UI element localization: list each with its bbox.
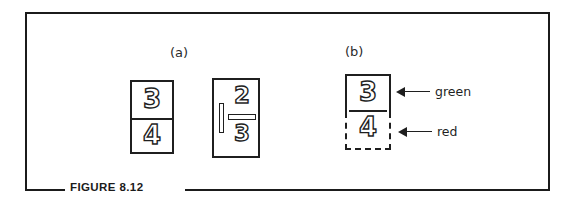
- figure-frame-bottom-left: [25, 189, 65, 191]
- figure-frame-bottom-right: [185, 189, 550, 191]
- figure-frame-right: [548, 12, 550, 191]
- numerator-digit: 3: [132, 86, 172, 112]
- fraction-box-three-quarters: 3 4: [130, 80, 174, 154]
- annotation-label: red: [437, 124, 458, 139]
- left-arrow-icon: [398, 126, 432, 138]
- panel-label-b: (b): [345, 44, 363, 59]
- figure-frame-top: [25, 12, 550, 14]
- region-cell-green: 3: [345, 74, 391, 112]
- numerator-digit: 3: [347, 79, 389, 105]
- figure-frame-left: [25, 12, 27, 191]
- denominator-digit: 4: [132, 122, 172, 148]
- panel-label-a: (a): [170, 45, 188, 60]
- left-arrow-icon: [396, 86, 430, 98]
- insertion-cursor-icon: [219, 103, 224, 133]
- numerator-digit: 2: [226, 84, 258, 107]
- denominator-digit: 3: [226, 122, 258, 145]
- denominator-digit: 4: [347, 114, 389, 140]
- annotation-label: green: [435, 84, 471, 99]
- fraction-box-two-thirds: 2 3: [212, 78, 260, 158]
- annotation-green: green: [396, 84, 471, 99]
- region-cell-red: 4: [345, 112, 391, 150]
- figure-caption: FIGURE 8.12: [70, 181, 143, 193]
- annotation-red: red: [398, 124, 458, 139]
- figure-page: FIGURE 8.12 (a) (b) 3 4 2 3 3 4 green re…: [0, 0, 578, 223]
